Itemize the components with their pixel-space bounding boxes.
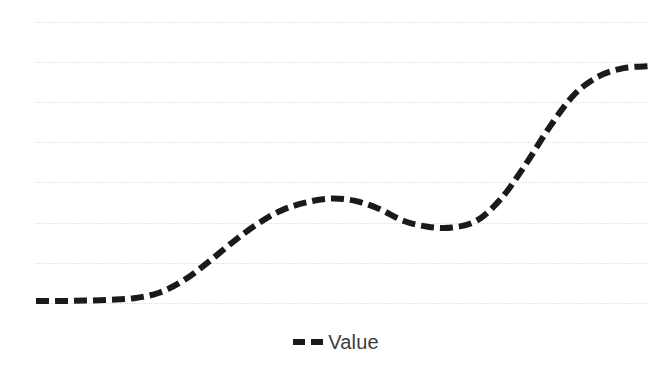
chart-container: Value [0,0,670,369]
legend-entry-label: Value [327,332,379,352]
legend-marker-dashed-line-icon [291,333,327,351]
chart-plot-area [0,0,670,369]
data-series-group [36,66,648,301]
series-line-value [36,66,648,301]
gridlines [36,23,648,304]
chart-legend: Value [0,322,670,362]
